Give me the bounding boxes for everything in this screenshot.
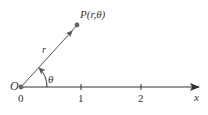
angle-label: θ	[48, 73, 54, 85]
polar-coordinates-diagram: O P(r,θ) r θ x 0 1 2	[0, 0, 208, 115]
radius-ray	[21, 31, 72, 87]
point-label: P(r,θ)	[79, 8, 106, 21]
origin-point	[19, 85, 24, 90]
axis-label-x: x	[193, 91, 199, 103]
origin-label: O	[10, 79, 19, 93]
tick-label-0: 0	[18, 92, 24, 104]
radius-label: r	[42, 44, 46, 55]
angle-arc	[39, 68, 47, 87]
tick-label-1: 1	[78, 92, 84, 104]
point-p	[75, 23, 80, 28]
tick-label-2: 2	[138, 92, 144, 104]
